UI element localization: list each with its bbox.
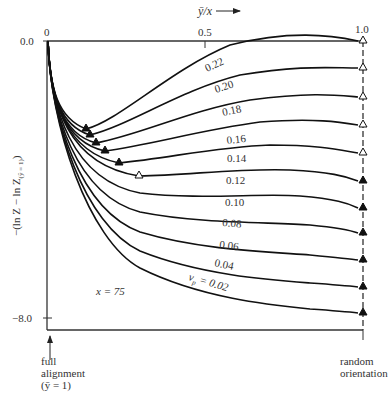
curves (48, 35, 358, 313)
open-triangle-icon (359, 148, 367, 155)
curve-label-0.14: 0.14 (227, 152, 247, 164)
curve-label-0.08: 0.08 (222, 216, 243, 230)
axis-ticks (43, 41, 205, 318)
curve-labels: 0.22 0.20 0.18 0.16 0.14 0.12 0.10 0.08 … (187, 55, 247, 296)
param-annotation: x = 75 (95, 285, 125, 297)
open-triangle-icon (359, 120, 367, 127)
x-tick-0: 0 (44, 26, 50, 38)
curve-label-0.10: 0.10 (225, 196, 245, 208)
curve-label-0.22: 0.22 (203, 55, 226, 74)
x-axis-top-label: ȳ/x (197, 4, 213, 18)
curve-label-0.12: 0.12 (226, 174, 245, 186)
curve-vp-0.18 (48, 41, 358, 143)
left-note: full alignment (ȳ = 1) (41, 355, 85, 391)
filled-triangle-icon (359, 308, 367, 315)
open-triangle-icon (135, 171, 143, 178)
open-triangle-icon (359, 92, 367, 99)
chart-canvas: ȳ/x 0 0.5 1.0 0.0 −8.0 −(ln Z − ln Z(ȳ =… (0, 0, 391, 396)
curve-vp-0.22 (48, 35, 358, 129)
filled-triangle-icon (359, 255, 367, 262)
curve-label-0.16: 0.16 (226, 132, 247, 146)
filled-triangle-icon (359, 203, 367, 210)
y-tick-minus-8.0: −8.0 (12, 312, 32, 324)
curve-label-0.20: 0.20 (213, 77, 235, 95)
x-tick-0.5: 0.5 (198, 26, 212, 38)
curve-label-0.06: 0.06 (219, 238, 240, 252)
curve-vp-0.02 (48, 41, 358, 313)
y-tick-0.0: 0.0 (20, 35, 34, 47)
right-note: random orientation (340, 355, 388, 379)
y-axis-label: −(ln Z − ln Z(ȳ = 1)) (10, 155, 25, 236)
filled-triangle-icon (115, 158, 123, 165)
filled-triangle-icon (359, 228, 367, 235)
x-tick-1.0: 1.0 (355, 23, 369, 35)
curve-label-0.04: 0.04 (214, 256, 236, 272)
filled-triangle-icon (359, 176, 367, 183)
filled-triangle-icon (359, 282, 367, 289)
svg-text:−(ln Z − ln Z(ȳ = 1)): −(ln Z − ln Z(ȳ = 1)) (10, 155, 25, 236)
curve-vp-0.06 (48, 41, 358, 260)
curve-vp-0.04 (48, 41, 358, 287)
open-triangle-icon (359, 36, 367, 43)
open-triangle-icon (359, 63, 367, 70)
